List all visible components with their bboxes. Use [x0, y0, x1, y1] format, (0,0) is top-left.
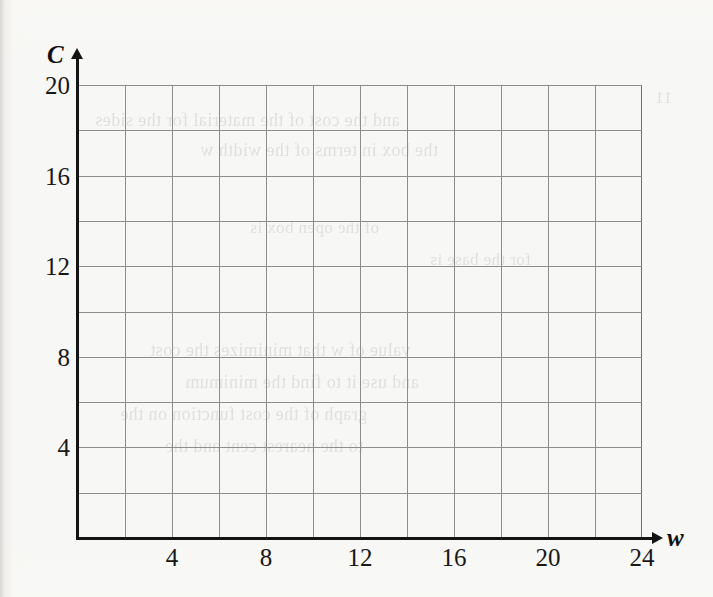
x-tick-label: 4 [142, 545, 202, 570]
gridline-horizontal [78, 447, 642, 448]
gridline-horizontal [78, 130, 642, 131]
x-axis-name: w [667, 525, 684, 550]
gridline-horizontal [78, 312, 642, 313]
y-axis-line [76, 56, 79, 540]
gridline-horizontal [78, 266, 642, 267]
y-tick-label: 16 [8, 164, 70, 189]
bleed-through-text: 11 [655, 88, 672, 108]
y-axis-name: C [47, 42, 64, 67]
gridline-horizontal [78, 176, 642, 177]
y-tick-label: 12 [8, 254, 70, 279]
gridline-horizontal [78, 493, 642, 494]
up-arrow-icon [71, 48, 83, 59]
x-axis-line [76, 537, 657, 540]
gridline-horizontal [78, 221, 642, 222]
gridline-horizontal [78, 85, 642, 86]
plot-area [78, 85, 642, 538]
x-tick-label: 20 [518, 545, 578, 570]
x-tick-label: 16 [424, 545, 484, 570]
x-tick-label: 12 [330, 545, 390, 570]
gridline-horizontal [78, 357, 642, 358]
y-tick-label: 20 [8, 73, 70, 98]
graph-page: and the cost of the material for the sid… [0, 0, 713, 597]
x-tick-label: 8 [236, 545, 296, 570]
gridline-horizontal [78, 402, 642, 403]
y-tick-label: 8 [8, 345, 70, 370]
x-tick-label: 24 [612, 545, 672, 570]
right-arrow-icon [652, 532, 663, 544]
y-tick-label: 4 [8, 435, 70, 460]
